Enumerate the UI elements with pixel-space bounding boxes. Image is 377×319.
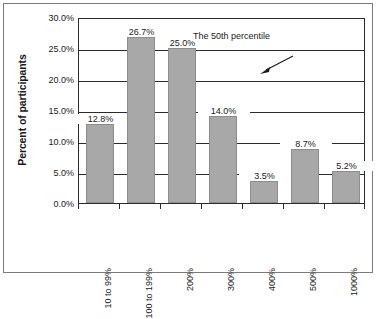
y-axis-title: Percent of participants [16, 30, 28, 190]
y-axis-tick-labels: 0.0%5.0%10.0%15.0%20.0%25.0%30.0% [30, 0, 74, 277]
y-axis-tick-label: 30.0% [30, 13, 74, 23]
bar-value-label: 5.2% [321, 161, 373, 171]
x-axis-tick-label: 300% [226, 268, 236, 291]
y-axis-tick-label: 25.0% [30, 44, 74, 54]
y-axis-tick-label: 10.0% [30, 137, 74, 147]
x-axis-tick [324, 204, 325, 209]
x-axis-tick [78, 204, 79, 209]
bar [250, 181, 278, 203]
y-axis-tick-label: 15.0% [30, 106, 74, 116]
bar [291, 149, 319, 203]
bar [168, 48, 196, 203]
x-axis-tick-label: 10 to 99% [103, 268, 113, 309]
bar [127, 37, 155, 203]
bar-value-label: 3.5% [239, 171, 291, 181]
x-axis-tick-label: 1000% [349, 268, 359, 296]
bar [209, 116, 237, 203]
y-axis-tick-label: 20.0% [30, 75, 74, 85]
annotation-label: The 50th percentile [192, 31, 271, 41]
bar-value-label: 12.8% [75, 114, 127, 124]
bar [332, 171, 360, 203]
x-axis-tick-label: 200% [185, 268, 195, 291]
bar-value-label: 26.7% [116, 27, 168, 37]
x-axis-tick [283, 204, 284, 209]
y-axis-tick-label: 0.0% [30, 199, 74, 209]
x-axis-tick [364, 204, 365, 209]
x-axis-tick-label: 100 to 199% [144, 268, 154, 319]
plot-area: 12.8%26.7%25.0%14.0%3.5%8.7%5.2% [78, 18, 365, 204]
bar-value-label: 8.7% [280, 139, 332, 149]
y-axis-tick-label: 5.0% [30, 168, 74, 178]
bar [86, 124, 114, 203]
x-axis-tick [119, 204, 120, 209]
x-axis-tick [160, 204, 161, 209]
x-axis-tick [201, 204, 202, 209]
x-axis-tick-labels: 10 to 99%100 to 199%200%300%400%500%1000… [78, 210, 365, 272]
bar-series: 12.8%26.7%25.0%14.0%3.5%8.7%5.2% [79, 19, 364, 203]
x-axis-tick-label: 500% [308, 268, 318, 291]
annotation-arrow-icon [257, 55, 295, 77]
x-axis-tick [242, 204, 243, 209]
x-axis-tick-label: 400% [267, 268, 277, 291]
bar-value-label: 14.0% [198, 106, 250, 116]
